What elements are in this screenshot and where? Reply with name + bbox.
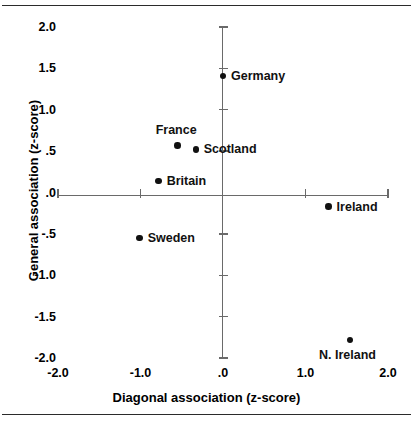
y-tick-label: 1.5 <box>14 61 56 75</box>
data-point-marker <box>347 337 354 344</box>
x-tick-label: -1.0 <box>117 366 165 380</box>
data-point-label: Sweden <box>148 231 195 245</box>
y-tick-mark <box>219 109 228 110</box>
y-tick-label: -1.5 <box>14 310 56 324</box>
data-point-marker <box>193 146 200 153</box>
data-point-marker <box>325 203 332 210</box>
y-tick-mark <box>219 316 228 317</box>
data-point-label: Britain <box>167 174 207 188</box>
x-tick-mark <box>305 189 306 198</box>
scatter-plot-figure: -2.0-1.0.01.02.0 2.01.51.0.5.0-.5-1.0-1.… <box>0 0 413 425</box>
x-tick-label: -2.0 <box>34 366 82 380</box>
data-point-marker <box>155 178 162 185</box>
y-tick-mark <box>219 357 228 358</box>
data-point-label: Ireland <box>337 200 378 214</box>
bottom-divider-rule <box>2 414 411 415</box>
x-tick-label: 1.0 <box>282 366 330 380</box>
x-tick-label: .0 <box>199 366 247 380</box>
top-divider-rule <box>2 5 411 6</box>
data-point-label: N. Ireland <box>319 348 376 362</box>
data-point-label: Germany <box>231 69 285 83</box>
x-tick-mark <box>387 189 388 198</box>
y-tick-mark <box>219 68 228 69</box>
x-tick-mark <box>140 189 141 198</box>
y-tick-label: 2.0 <box>14 20 56 34</box>
x-tick-mark <box>57 189 58 198</box>
data-point-label: France <box>156 123 197 137</box>
data-point-marker <box>136 235 143 242</box>
y-tick-mark <box>219 275 228 276</box>
y-tick-mark <box>219 233 228 234</box>
x-tick-label: 2.0 <box>364 366 412 380</box>
data-point-marker <box>220 73 227 80</box>
data-point-label: Scotland <box>204 142 257 156</box>
y-axis-title: General association (z-score) <box>26 76 41 306</box>
data-point-marker <box>174 142 181 149</box>
y-tick-label: -2.0 <box>14 351 56 365</box>
x-axis-title: Diagonal association (z-score) <box>0 390 413 405</box>
y-tick-mark <box>219 26 228 27</box>
